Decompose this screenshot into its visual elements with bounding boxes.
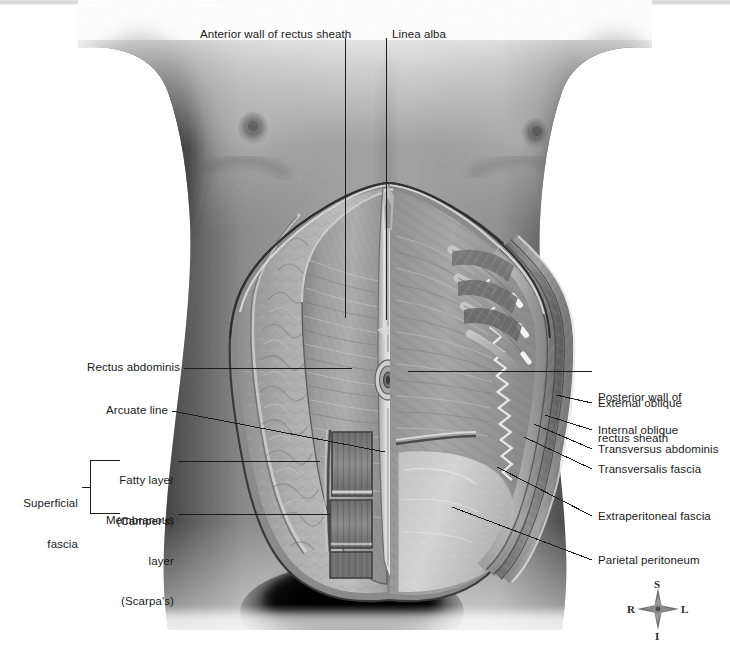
label-transversus-abdominis: Transversus abdominis — [598, 443, 719, 457]
compass-label-superior: S — [654, 578, 660, 590]
compass-label-inferior: I — [655, 630, 659, 642]
label-superficial-fascia: Superficial fascia — [0, 470, 78, 578]
label-superficial-fascia-line2: fascia — [0, 538, 78, 552]
label-membranous-layer-line3: (Scarpa's) — [0, 595, 174, 609]
label-extraperitoneal-fascia: Extraperitoneal fascia — [598, 510, 711, 524]
label-anterior-wall-rectus-sheath: Anterior wall of rectus sheath — [200, 28, 345, 42]
label-superficial-fascia-line1: Superficial — [0, 497, 78, 511]
label-transversalis-fascia: Transversalis fascia — [598, 463, 701, 477]
anatomical-figure: Anterior wall of rectus sheath Linea alb… — [0, 0, 730, 669]
label-linea-alba: Linea alba — [392, 28, 446, 42]
label-rectus-abdominis: Rectus abdominis — [0, 361, 180, 375]
compass-label-right: R — [627, 603, 635, 615]
abdominal-wall-dissection — [230, 183, 575, 601]
label-arcuate-line: Arcuate line — [0, 404, 168, 418]
label-external-oblique: External oblique — [598, 397, 682, 411]
label-internal-oblique: Internal oblique — [598, 424, 678, 438]
rectus-abdominis-muscle — [325, 430, 372, 578]
compass-label-left: L — [681, 603, 688, 615]
label-parietal-peritoneum: Parietal peritoneum — [598, 554, 700, 568]
